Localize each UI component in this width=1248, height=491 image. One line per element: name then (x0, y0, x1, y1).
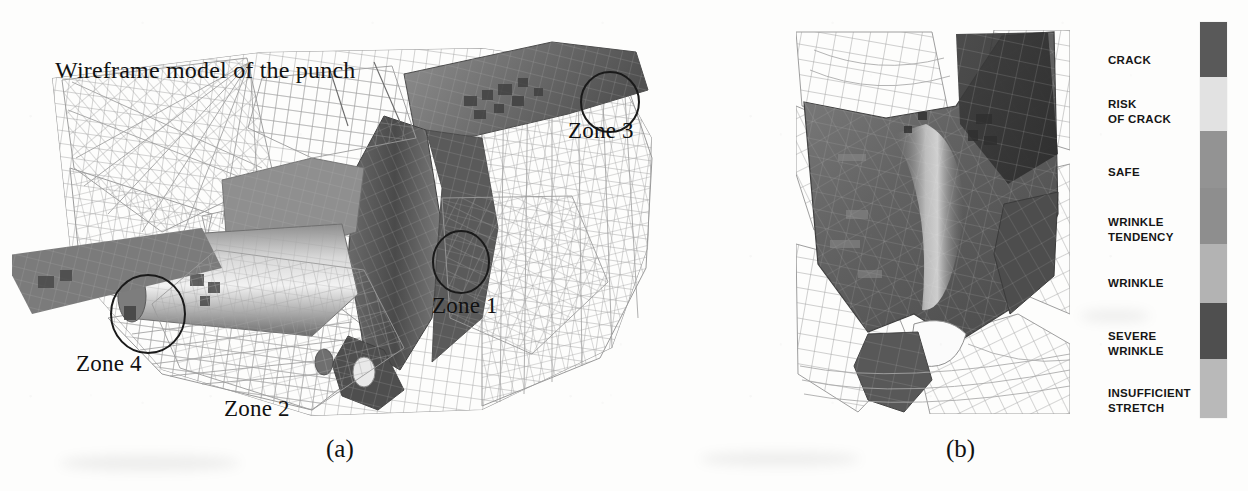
forming-limit-legend: CRACKRISKOF CRACKSAFEWRINKLETENDENCYWRIN… (1108, 14, 1236, 426)
legend-label-2-line-1: RISK (1108, 98, 1137, 110)
legend-color-bar (1200, 22, 1227, 418)
zone-4-label: Zone 4 (76, 352, 142, 375)
scan-smudge-3 (1080, 310, 1150, 322)
legend-label-6-line-2: WRINKLE (1108, 345, 1164, 357)
legend-band-5 (1200, 244, 1227, 303)
panel-b-detail-view (718, 14, 1070, 426)
legend-label-1-line-1: CRACK (1108, 54, 1151, 66)
legend-band-3 (1200, 131, 1227, 188)
panel-b-render (718, 14, 1070, 426)
wireframe-model-annotation: Wireframe model of the punch (55, 58, 356, 82)
panel-a-wireframe-punch: Wireframe model of the punch Zone 3 Zone… (12, 18, 672, 418)
legend-label-7-line-1: INSUFFICIENT (1108, 387, 1191, 399)
legend-label-3-line-1: SAFE (1108, 166, 1140, 178)
figure-root: Wireframe model of the punch Zone 3 Zone… (0, 0, 1248, 491)
zone-2-label: Zone 2 (224, 397, 290, 418)
legend-label-5-line-1: WRINKLE (1108, 277, 1164, 289)
legend-label-2-line-2: OF CRACK (1108, 113, 1171, 125)
legend-band-4 (1200, 188, 1227, 243)
caption-b: (b) (946, 436, 975, 461)
legend-label-4-line-1: WRINKLE (1108, 216, 1164, 228)
legend-band-7 (1200, 359, 1227, 418)
legend-label-4-line-2: TENDENCY (1108, 231, 1174, 243)
legend-label-7-line-2: STRETCH (1108, 402, 1164, 414)
legend-label-6-line-1: SEVERE (1108, 330, 1156, 342)
legend-band-2 (1200, 77, 1227, 130)
legend-band-1 (1200, 22, 1227, 77)
scan-smudge-2 (700, 452, 860, 466)
legend-label-column: CRACKRISKOF CRACKSAFEWRINKLETENDENCYWRIN… (1108, 14, 1200, 426)
scan-smudge-1 (60, 455, 240, 471)
zone-3-label: Zone 3 (568, 119, 634, 142)
legend-band-6 (1200, 303, 1227, 358)
caption-a: (a) (326, 436, 354, 461)
zone-1-label: Zone 1 (432, 294, 498, 317)
